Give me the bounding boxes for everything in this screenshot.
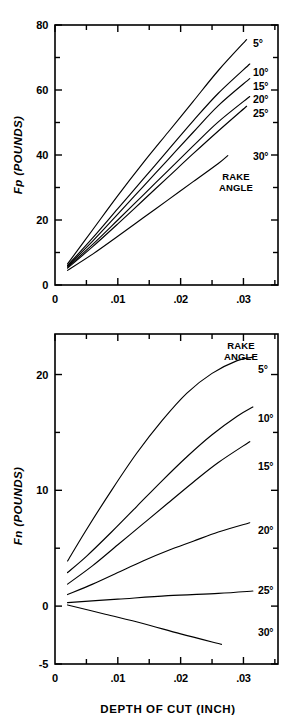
series-curve: [68, 591, 253, 603]
figure-container: 020406080 0.01.02.03 5°10°15°20°25°30° F…: [0, 0, 293, 721]
series-label: 20°: [258, 524, 273, 536]
fn-x-tick-labels: 0.01.02.03: [52, 672, 251, 684]
series-label: 5°: [253, 37, 263, 49]
x-tick-label: .02: [173, 672, 188, 684]
y-tick-label: 20: [36, 214, 48, 226]
fp-series-labels: 5°10°15°20°25°30°: [253, 37, 268, 162]
fp-y-axis-title: Fp (POUNDS): [12, 116, 24, 195]
series-label: 30°: [258, 626, 273, 638]
series-label: 10°: [253, 66, 268, 78]
x-tick-label: .03: [236, 672, 251, 684]
fp-chart: 020406080 0.01.02.03 5°10°15°20°25°30° F…: [0, 0, 293, 320]
fn-axis-ticks: [55, 334, 278, 664]
series-label: 30°: [253, 150, 268, 162]
fp-x-tick-labels: 0.01.02.03: [52, 293, 251, 305]
fn-y-axis-title: Fn (POUNDS): [12, 467, 24, 546]
fn-chart: -501020 0.01.02.03 5°10°15°20°25°30° Fn …: [0, 321, 293, 721]
x-tick-label: 0: [52, 672, 58, 684]
x-tick-label: 0: [52, 293, 58, 305]
series-label: 15°: [253, 80, 268, 92]
x-tick-label: .02: [173, 293, 188, 305]
fp-rake-angle-caption-line1: RAKE: [222, 171, 250, 182]
fn-x-axis-title: DEPTH OF CUT (INCH): [100, 703, 235, 715]
series-label: 5°: [258, 363, 268, 375]
fn-rake-angle-caption-line1: RAKE: [227, 340, 255, 351]
series-curve: [68, 40, 247, 264]
y-tick-label: 60: [36, 84, 48, 96]
series-label: 20°: [253, 93, 268, 105]
series-curve: [68, 523, 250, 595]
series-label: 25°: [258, 584, 273, 596]
fn-rake-angle-caption-line2: ANGLE: [224, 351, 258, 362]
x-tick-label: .01: [111, 293, 126, 305]
y-tick-label: 0: [42, 600, 48, 612]
series-curve: [68, 156, 228, 271]
x-tick-label: .03: [236, 293, 251, 305]
series-label: 10°: [258, 412, 273, 424]
series-curve: [68, 407, 253, 573]
y-tick-label: 80: [36, 19, 48, 31]
y-tick-label: 0: [42, 279, 48, 291]
y-tick-label: 40: [36, 149, 48, 161]
series-label: 15°: [258, 460, 273, 472]
fn-plot-frame: [55, 334, 278, 664]
fn-series-labels: 5°10°15°20°25°30°: [258, 363, 273, 638]
y-tick-label: 10: [36, 484, 48, 496]
fn-curves: [68, 357, 253, 644]
y-tick-label: 20: [36, 369, 48, 381]
x-tick-label: .01: [111, 672, 126, 684]
series-curve: [68, 442, 250, 584]
fn-y-tick-labels: -501020: [36, 369, 48, 670]
y-tick-label: -5: [39, 658, 48, 670]
series-curve: [68, 64, 250, 266]
series-label: 25°: [253, 107, 268, 119]
series-curve: [68, 605, 222, 644]
fp-curves: [68, 40, 250, 271]
fp-y-tick-labels: 020406080: [36, 19, 48, 291]
fp-rake-angle-caption-line2: ANGLE: [219, 182, 253, 193]
